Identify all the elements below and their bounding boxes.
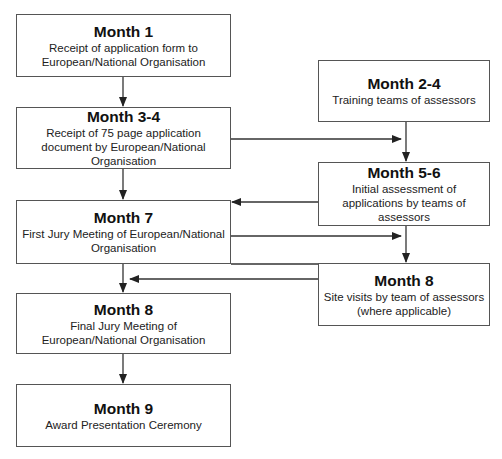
box-desc-line: Receipt of 75 page application bbox=[46, 126, 201, 140]
month-8-final-jury-box: Month 8 Final Jury Meeting of European/N… bbox=[16, 293, 231, 354]
box-desc-line: Initial assessment of bbox=[352, 182, 456, 196]
box-title: Month 8 bbox=[374, 272, 433, 290]
month-8-site-visits-box: Month 8 Site visits by team of assessors… bbox=[318, 263, 490, 326]
box-desc-line: European/National Organisation bbox=[42, 333, 206, 347]
box-title: Month 3-4 bbox=[87, 108, 160, 126]
box-desc-line: European/National Organisation bbox=[42, 55, 206, 69]
box-desc-line: Receipt of application form to bbox=[49, 41, 198, 55]
box-desc-line: document by European/National bbox=[41, 140, 205, 154]
box-desc-line: Organisation bbox=[91, 154, 156, 168]
box-title: Month 9 bbox=[94, 400, 153, 418]
box-title: Month 7 bbox=[94, 209, 153, 227]
box-desc-line: Site visits by team of assessors bbox=[324, 290, 484, 304]
box-title: Month 8 bbox=[94, 301, 153, 319]
box-title: Month 2-4 bbox=[367, 75, 440, 93]
month-2-4-box: Month 2-4 Training teams of assessors bbox=[318, 60, 490, 122]
month-1-box: Month 1 Receipt of application form to E… bbox=[16, 14, 231, 77]
box-desc-line: applications by teams of bbox=[342, 196, 465, 210]
month-3-4-box: Month 3-4 Receipt of 75 page application… bbox=[16, 107, 231, 169]
box-title: Month 1 bbox=[94, 23, 153, 41]
box-desc-line: Final Jury Meeting of bbox=[70, 319, 177, 333]
box-desc-line: Training teams of assessors bbox=[332, 93, 475, 107]
box-desc-line: Award Presentation Ceremony bbox=[45, 418, 201, 432]
box-desc-line: (where applicable) bbox=[357, 304, 451, 318]
month-5-6-box: Month 5-6 Initial assessment of applicat… bbox=[318, 162, 490, 226]
box-desc-line: Organisation bbox=[91, 241, 156, 255]
box-desc-line: assessors bbox=[378, 210, 430, 224]
box-desc-line: First Jury Meeting of European/National bbox=[22, 227, 225, 241]
month-7-box: Month 7 First Jury Meeting of European/N… bbox=[16, 200, 231, 264]
box-title: Month 5-6 bbox=[367, 164, 440, 182]
month-9-box: Month 9 Award Presentation Ceremony bbox=[16, 384, 231, 447]
